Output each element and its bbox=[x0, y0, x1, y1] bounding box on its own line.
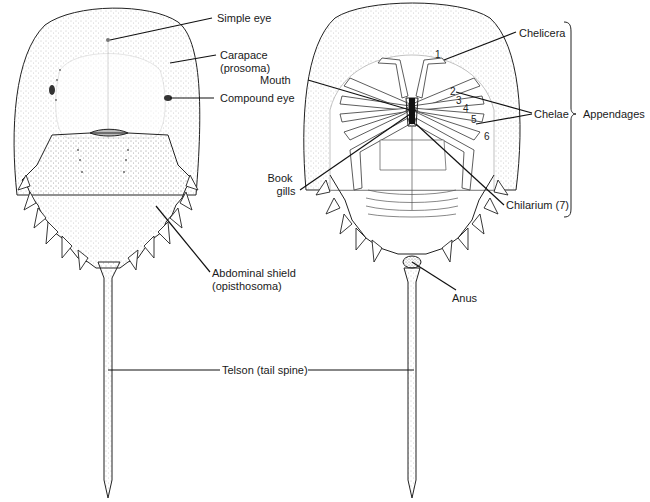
appendage-number-4: 4 bbox=[463, 103, 469, 114]
simple-eye bbox=[106, 38, 110, 42]
dorsal-view bbox=[14, 8, 200, 498]
diagram-artwork: 1 2 3 4 5 6 bbox=[0, 0, 650, 502]
compound-eye-left bbox=[49, 85, 55, 95]
leader-abdominal bbox=[156, 206, 210, 272]
ventral-telson bbox=[404, 268, 420, 498]
dorsal-telson bbox=[98, 262, 120, 498]
label-mouth: Mouth bbox=[260, 74, 291, 86]
label-chelae: Chelae bbox=[534, 108, 569, 120]
label-abdominal-shield: Abdominal shield bbox=[212, 267, 296, 279]
ventral-view: 1 2 3 4 5 6 bbox=[304, 3, 520, 498]
appendage-number-5: 5 bbox=[471, 114, 477, 125]
horseshoe-crab-diagram: 1 2 3 4 5 6 Simple eye Carapace (p bbox=[0, 0, 650, 502]
label-chelicera: Chelicera bbox=[519, 27, 565, 39]
label-book: Book bbox=[262, 172, 298, 184]
label-prosoma: (prosoma) bbox=[220, 62, 270, 74]
dorsal-abdominal-shield bbox=[22, 133, 193, 268]
label-simple-eye: Simple eye bbox=[217, 12, 271, 24]
label-telson: Telson (tail spine) bbox=[222, 364, 308, 376]
label-chilarium: Chilarium (7) bbox=[506, 199, 569, 211]
label-gills: gills bbox=[268, 185, 304, 197]
label-anus: Anus bbox=[452, 292, 477, 304]
appendage-number-6: 6 bbox=[484, 131, 490, 142]
leader-anus bbox=[412, 262, 456, 290]
label-compound-eye: Compound eye bbox=[220, 92, 295, 104]
appendage-number-3: 3 bbox=[456, 95, 462, 106]
label-carapace: Carapace bbox=[220, 49, 268, 61]
label-opisthosoma: (opisthosoma) bbox=[212, 280, 282, 292]
label-appendages: Appendages bbox=[583, 108, 645, 120]
appendage-number-1: 1 bbox=[435, 49, 441, 60]
